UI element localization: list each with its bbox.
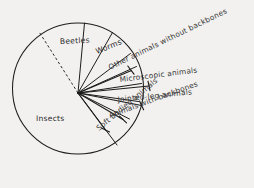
slice-label-insects: Insects bbox=[36, 114, 65, 123]
callout-label-other-without-backbones: Other animals without backbones bbox=[107, 6, 228, 71]
pie-chart-figure: Beetles Worms Insects Other animals with… bbox=[0, 0, 254, 188]
slice-label-beetles: Beetles bbox=[60, 35, 90, 46]
callout-label-microscopic-animals: Microscopic animals bbox=[119, 66, 198, 84]
pie-chart-canvas: Beetles Worms Insects Other animals with… bbox=[0, 0, 254, 188]
